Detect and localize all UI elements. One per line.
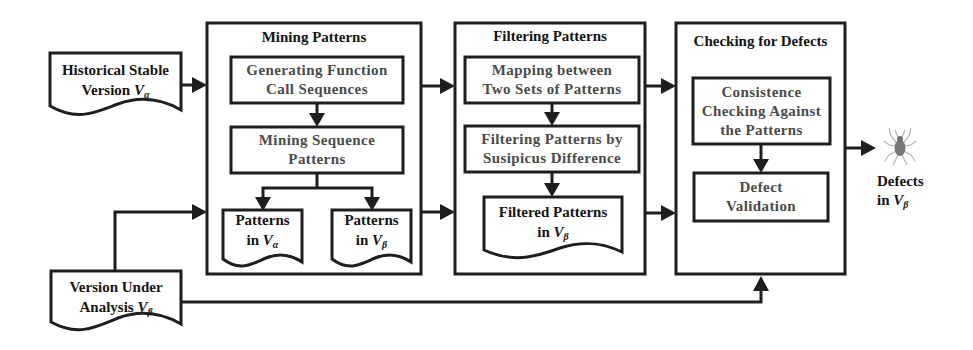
defects-output-label: Defects in Vβ [877,172,924,214]
arrow-under-analysis-to-mining [192,204,207,220]
filtering-stage-title: Filtering Patterns [455,27,645,46]
historical-version-label: Historical Stable Version Vα [50,60,181,105]
arrow-mining-to-filtering-top [440,78,455,94]
arrow-mapping-to-filtering [544,112,560,126]
mining-stage-title: Mining Patterns [207,28,421,47]
patterns-beta-label: Patterns in Vβ [332,210,411,255]
step-mining-sequence-patterns: Mining Sequence Patterns [231,127,403,173]
workflow-diagram: Historical Stable Version Vα Version Und… [0,0,973,350]
arrow-historical-to-mining [192,77,207,93]
step-defect-validation: Defect Validation [694,173,828,221]
checking-stage-title: Checking for Defects [676,32,845,51]
filtered-patterns-label: Filtered Patterns in Vβ [484,202,622,247]
arrow-under-analysis-to-checking [753,276,769,291]
step-filtering-by-difference: Filtering Patterns by Susipicus Differen… [465,126,639,172]
arrow-filtering-to-filtered-doc [544,183,560,197]
arrow-filtering-to-checking-top [661,78,676,94]
step-mapping-pattern-sets: Mapping between Two Sets of Patterns [465,57,639,103]
arrow-consistence-to-validation [753,159,769,173]
step-consistence-checking: Consistence Checking Against the Pattern… [693,78,830,144]
under-analysis-version-label: Version Under Analysis Vβ [51,277,181,322]
arrow-mining-to-filtering-bottom [440,204,455,220]
step-generating-call-sequences: Generating Function Call Sequences [231,57,403,103]
patterns-alpha-label: Patterns in Vα [223,210,302,255]
bug-icon [884,128,916,165]
arrow-checking-to-defects [861,140,876,156]
arrow-filtering-to-checking-bottom [661,205,676,221]
arrow-generate-to-mine [309,113,325,127]
